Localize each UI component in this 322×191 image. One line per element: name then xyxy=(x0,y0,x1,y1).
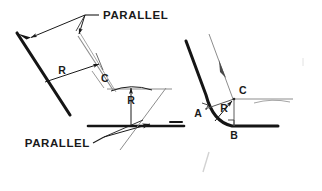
right-point-a-label: A xyxy=(194,107,202,119)
left-parallel-bottom-label: PARALLEL xyxy=(25,137,90,149)
left-radius-label: R xyxy=(58,64,66,76)
diagram-canvas: PARALLEL R C R PARALLEL xyxy=(0,0,322,191)
left-figure-group: PARALLEL R C R PARALLEL xyxy=(17,9,184,150)
left-mid-radius-label: R xyxy=(127,94,135,106)
left-parallel-top-leader-branch-1 xyxy=(31,15,85,38)
left-point-c-label: C xyxy=(101,72,109,84)
faint-tick-bottom xyxy=(203,152,209,172)
right-point-b-label: B xyxy=(230,129,238,141)
left-parallel-bottom-leader-branch-2 xyxy=(104,120,143,137)
left-parallel-top-label: PARALLEL xyxy=(103,9,168,21)
right-point-c-label: C xyxy=(239,84,247,96)
technical-drawing-svg: PARALLEL R C R PARALLEL xyxy=(0,0,322,191)
left-construction-parallel-inclined-b xyxy=(80,33,116,92)
left-parallel-bottom-leader-stem xyxy=(93,137,104,143)
right-center-point-c-mark xyxy=(233,98,236,101)
left-radius-leader xyxy=(45,64,99,82)
right-construction-horizontal-arc xyxy=(254,100,290,103)
right-figure-group: R A B C xyxy=(170,34,293,141)
right-radius-label: R xyxy=(220,102,228,114)
